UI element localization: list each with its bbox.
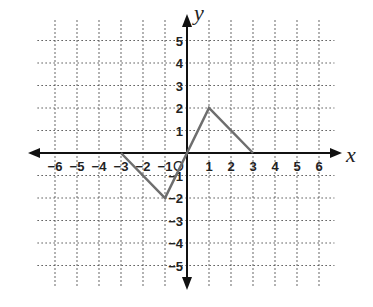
axes bbox=[28, 14, 342, 290]
x-tick-label: 1 bbox=[205, 159, 212, 174]
y-tick-label: −5 bbox=[168, 259, 183, 274]
y-tick-label: 1 bbox=[176, 124, 183, 139]
x-tick-label: −4 bbox=[92, 159, 108, 174]
x-tick-label: −5 bbox=[70, 159, 85, 174]
x-axis-left-arrow bbox=[28, 148, 40, 158]
y-tick-label: −4 bbox=[168, 236, 184, 251]
y-tick-label: 2 bbox=[176, 101, 183, 116]
x-tick-label: 2 bbox=[227, 159, 234, 174]
x-axis-right-arrow bbox=[330, 148, 342, 158]
y-tick-label: −3 bbox=[168, 214, 183, 229]
x-tick-label: 6 bbox=[315, 159, 322, 174]
y-tick-label: 4 bbox=[176, 56, 184, 71]
y-axis-bottom-arrow bbox=[182, 277, 192, 290]
x-tick-label: −6 bbox=[48, 159, 63, 174]
y-axis-label: y bbox=[192, 0, 204, 25]
x-tick-label: 3 bbox=[249, 159, 256, 174]
y-tick-label: 3 bbox=[176, 79, 183, 94]
y-tick-label: 5 bbox=[176, 34, 183, 49]
y-tick-label: −2 bbox=[168, 191, 183, 206]
x-tick-label: −3 bbox=[114, 159, 129, 174]
x-tick-label: 5 bbox=[293, 159, 300, 174]
coordinate-plane: −6−5−4−3−2−112345654321−1−2−3−4−5 x y O bbox=[0, 0, 373, 307]
y-axis-top-arrow bbox=[182, 14, 192, 27]
x-tick-label: 4 bbox=[271, 159, 279, 174]
x-axis-label: x bbox=[345, 142, 356, 167]
